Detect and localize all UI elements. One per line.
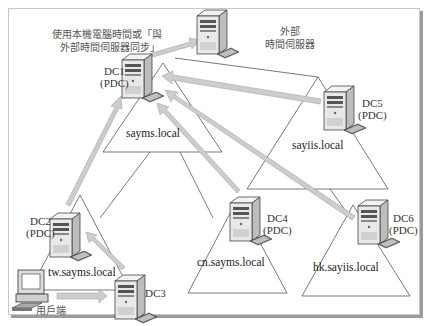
arrow-client-to-dc3 — [57, 289, 107, 303]
external-server-label-line2: 時間伺服器 — [265, 38, 315, 51]
dc5-label: DC5 (PDC) — [358, 97, 387, 121]
external-server-label: 外部 時間伺服器 — [265, 25, 315, 51]
dc6-id: DC6 — [389, 212, 418, 224]
dc3-label: DC3 — [145, 287, 166, 299]
dc1-id: DC1 — [100, 65, 129, 77]
dc2-label: DC2 (PDC) — [26, 215, 55, 239]
domain-label-hk-sayiis-local: hk.sayiis.local — [313, 261, 379, 273]
sync-note-line2: 外部時間伺服器同步」 — [52, 41, 162, 54]
dc4-role: (PDC) — [263, 224, 292, 236]
dc4-label: DC4 (PDC) — [263, 212, 292, 236]
domain-label-sayms-local: sayms.local — [126, 127, 180, 139]
dc2-id: DC2 — [26, 215, 55, 227]
dc2-role: (PDC) — [26, 227, 55, 239]
dc1-label: DC1 (PDC) — [100, 65, 129, 89]
sync-note-line1: 使用本機電腦時間或「與 — [52, 28, 162, 41]
dc6-role: (PDC) — [389, 224, 418, 236]
external-time-server-icon — [197, 10, 239, 58]
dc6-label: DC6 (PDC) — [389, 212, 418, 236]
dc3-server-icon — [115, 275, 157, 323]
dc5-role: (PDC) — [358, 109, 387, 121]
dc1-role: (PDC) — [100, 77, 129, 89]
dc5-id: DC5 — [358, 97, 387, 109]
arrow-dc3-to-dc2 — [86, 232, 125, 270]
external-server-label-line1: 外部 — [265, 25, 315, 38]
dc4-id: DC4 — [263, 212, 292, 224]
domain-label-cn-sayms-local: cn.sayms.local — [197, 256, 265, 268]
client-label: 用戶端 — [36, 304, 66, 317]
dc2-server-icon — [50, 213, 92, 261]
domain-label-sayiis-local: sayiis.local — [292, 139, 343, 151]
arrow-dc5-to-dc1 — [162, 71, 321, 104]
domain-label-tw-sayms-local: tw.sayms.local — [48, 266, 116, 278]
sync-note: 使用本機電腦時間或「與 外部時間伺服器同步」 — [52, 28, 162, 54]
dc3-id: DC3 — [145, 287, 166, 299]
arrow-dc2-to-dc1 — [66, 96, 122, 206]
